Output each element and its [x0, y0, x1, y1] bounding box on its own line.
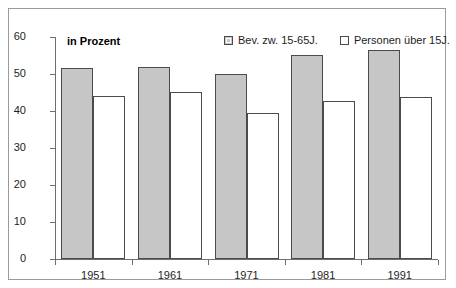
x-tick-label: 1991 [370, 270, 430, 281]
y-tick-label: 60 [0, 31, 26, 42]
chart-screenshot: in Prozent Bev. zw. 15-65J. Personen übe… [0, 0, 456, 288]
y-tick-label: 50 [0, 68, 26, 79]
bar-1951-series-a [61, 68, 93, 259]
y-tick-label: 40 [0, 105, 26, 116]
bar-1981-series-a [291, 55, 323, 259]
x-tick-mark [132, 260, 133, 265]
y-tick-label: 20 [0, 179, 26, 190]
figure-frame: in Prozent Bev. zw. 15-65J. Personen übe… [8, 8, 446, 280]
x-tick-label: 1971 [217, 270, 277, 281]
x-tick-mark [55, 260, 56, 265]
y-tick-label: 30 [0, 142, 26, 153]
x-tick-mark [438, 260, 439, 265]
y-tick-label: 10 [0, 216, 26, 227]
bar-1981-series-b [323, 101, 355, 259]
bar-1991-series-a [368, 50, 400, 259]
y-tick-label: 0 [0, 253, 26, 264]
bar-1961-series-b [170, 92, 202, 259]
bars-layer [55, 37, 438, 259]
x-axis-line [55, 259, 438, 260]
x-tick-mark [361, 260, 362, 265]
bar-1951-series-b [93, 96, 125, 259]
bar-1961-series-a [138, 67, 170, 259]
x-tick-label: 1961 [140, 270, 200, 281]
x-tick-mark [285, 260, 286, 265]
x-tick-label: 1951 [63, 270, 123, 281]
bar-1971-series-b [247, 113, 279, 259]
bar-1971-series-a [215, 74, 247, 259]
x-tick-mark [208, 260, 209, 265]
bar-1991-series-b [400, 97, 432, 259]
x-tick-label: 1981 [293, 270, 353, 281]
